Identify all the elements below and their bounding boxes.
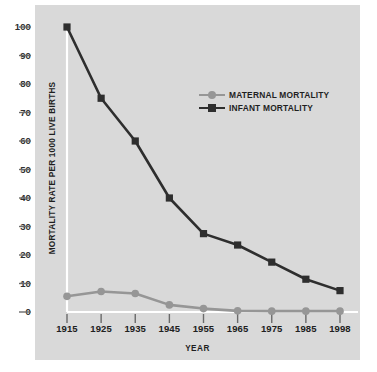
chart-legend: MATERNAL MORTALITY INFANT MORTALITY — [199, 88, 344, 114]
chart-plot-area — [0, 0, 377, 372]
guide-lines-layer — [67, 27, 358, 312]
circle-marker-icon — [199, 89, 225, 101]
x-axis-title: YEAR — [35, 344, 360, 353]
legend-label-infant: INFANT MORTALITY — [225, 103, 313, 113]
series-layer — [63, 23, 344, 315]
legend-item-infant[interactable]: INFANT MORTALITY — [199, 101, 344, 114]
x-axis-tick-label: 1998 — [320, 323, 360, 334]
square-marker-icon — [199, 102, 225, 114]
mortality-line-chart: 0102030405060708090100 MORTALITY RATE PE… — [0, 0, 377, 372]
legend-item-maternal[interactable]: MATERNAL MORTALITY — [199, 88, 344, 101]
legend-label-maternal: MATERNAL MORTALITY — [225, 90, 329, 100]
